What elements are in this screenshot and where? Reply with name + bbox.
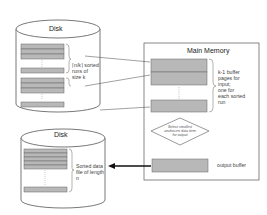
main-memory-title: Main Memory <box>187 47 229 55</box>
sorted-output-line3: n <box>76 176 104 182</box>
runs-label: ⌈n/k⌉ sorted runs of size k <box>72 63 99 81</box>
decision-line: for output <box>160 133 200 137</box>
output-buffer-label: output buffer <box>217 163 246 169</box>
decision-diamond-text: Select smallest unchosen data item for o… <box>160 125 200 137</box>
input-buffers-label: k-1 buffer pages for input; one for each… <box>218 70 245 106</box>
top-disk-label: Disk <box>49 25 63 33</box>
main-memory-box <box>144 43 259 180</box>
input-buffers-line: run <box>218 100 245 106</box>
runs-label-line3: size k <box>72 75 99 81</box>
bottom-disk-label: Disk <box>54 131 68 139</box>
sorted-output-line2: file of length <box>76 170 104 176</box>
sorted-output-label: Sorted data file of length n <box>76 164 104 182</box>
diagram-canvas <box>0 0 267 215</box>
